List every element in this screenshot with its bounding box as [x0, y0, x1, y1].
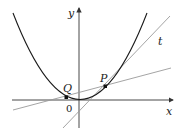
point-p — [104, 85, 108, 89]
point-q-label: Q — [63, 83, 72, 94]
point-p-label: P — [100, 73, 107, 84]
y-axis-label: y — [68, 8, 74, 19]
diagram-svg — [0, 0, 181, 135]
secant-line-pq — [13, 68, 171, 110]
diagram: y x t Q P 0 — [0, 0, 181, 135]
origin-label: 0 — [66, 104, 72, 114]
tangent-label: t — [158, 36, 162, 47]
parabola-curve — [13, 13, 147, 100]
x-axis-label: x — [166, 106, 172, 117]
point-q — [65, 96, 69, 100]
